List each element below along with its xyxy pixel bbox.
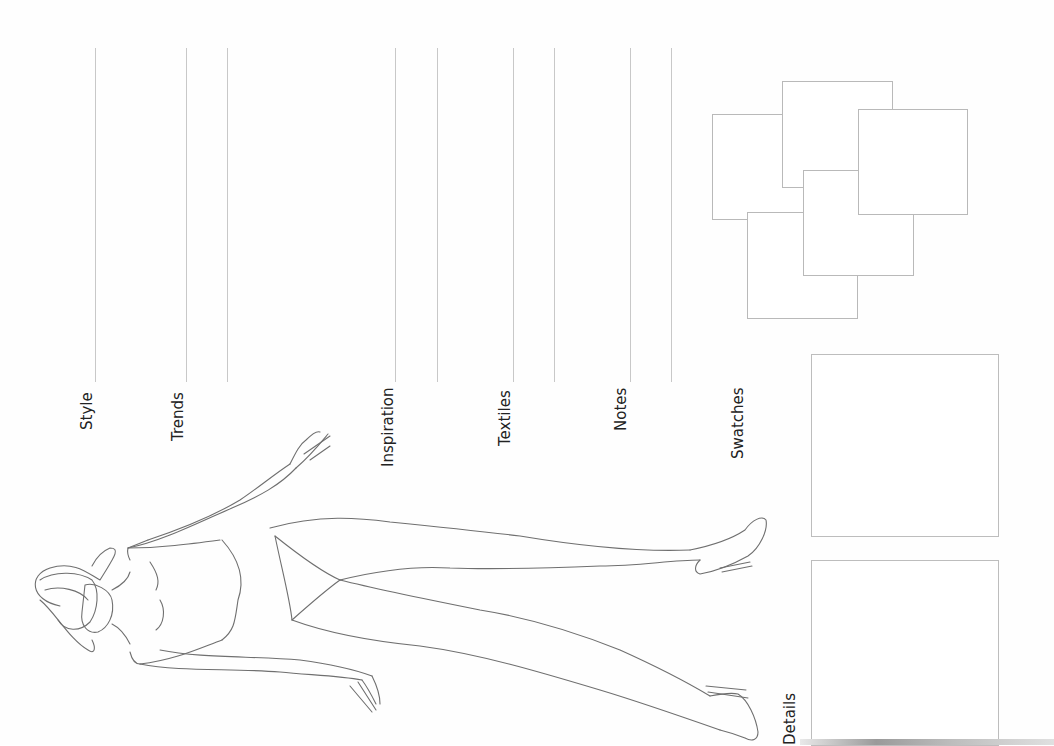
scan-edge-shadow: [800, 739, 1054, 745]
style-line[interactable]: [95, 48, 96, 382]
detail-box-1[interactable]: [811, 354, 999, 537]
inspiration-line-2[interactable]: [437, 48, 438, 382]
notes-line-2[interactable]: [671, 48, 672, 382]
notes-line-1[interactable]: [630, 48, 631, 382]
trends-line-2[interactable]: [227, 48, 228, 382]
croquis-figure: [0, 420, 780, 745]
swatch-square-3[interactable]: [858, 109, 968, 215]
detail-box-2[interactable]: [811, 560, 999, 746]
trends-line-1[interactable]: [186, 48, 187, 382]
inspiration-line-1[interactable]: [395, 48, 396, 382]
label-details: Details: [781, 693, 799, 745]
textiles-line-2[interactable]: [554, 48, 555, 382]
textiles-line-1[interactable]: [513, 48, 514, 382]
